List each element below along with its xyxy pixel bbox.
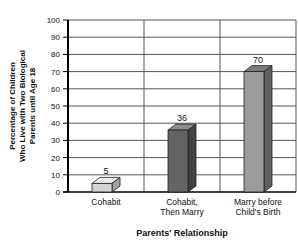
x-category-label-1: Cohabit,Then Marry <box>160 197 204 217</box>
y-tick-label-80: 80 <box>51 50 60 59</box>
plot-area: 01020304050607080901005Cohabit36Cohabit,… <box>0 0 298 244</box>
y-tick-label-60: 60 <box>51 85 60 94</box>
y-tick-label-40: 40 <box>51 119 60 128</box>
y-tick-label-10: 10 <box>51 171 60 180</box>
bar-1-value-label: 36 <box>177 113 187 123</box>
bar-2-front-face <box>244 72 264 192</box>
y-tick-label-50: 50 <box>51 102 60 111</box>
bar-0-value-label: 5 <box>103 166 108 176</box>
x-category-label-2: Marry beforeChild's Birth <box>234 197 282 217</box>
y-tick-label-90: 90 <box>51 33 60 42</box>
bar-1-front-face <box>168 130 188 192</box>
bar-chart: Percentage of Children Who Live with Two… <box>0 0 298 244</box>
y-tick-label-30: 30 <box>51 136 60 145</box>
bar-2-value-label: 70 <box>253 55 263 65</box>
y-tick-label-0: 0 <box>56 188 61 197</box>
x-category-label-0: Cohabit <box>91 197 121 207</box>
bar-1-side-face <box>188 124 196 192</box>
y-tick-label-70: 70 <box>51 68 60 77</box>
y-tick-label-20: 20 <box>51 154 60 163</box>
bar-0-front-face <box>92 183 112 192</box>
x-axis-title: Parents' Relationship <box>68 228 296 238</box>
bar-2-side-face <box>264 66 272 192</box>
y-tick-label-100: 100 <box>47 16 61 25</box>
